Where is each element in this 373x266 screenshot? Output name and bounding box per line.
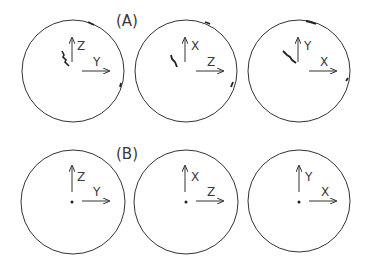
panel-a-1: Z Y: [22, 20, 124, 122]
horizontal-axis-label: Y: [92, 185, 101, 199]
point-trace: [185, 201, 188, 204]
horizontal-axis-label: Z: [207, 185, 215, 199]
horizontal-axis-label: Y: [92, 55, 101, 69]
horizontal-axis-label: X: [321, 185, 329, 199]
panel-a-2: X Z: [135, 20, 237, 122]
vertical-axis-label: Z: [77, 170, 85, 184]
vertical-axis-label: Z: [77, 39, 85, 53]
trajectory-trace: [171, 55, 177, 67]
horizontal-axis-label: X: [320, 55, 328, 69]
panel-b-2: X Z: [134, 150, 238, 254]
point-trace: [71, 201, 74, 204]
vertical-axis-label: X: [191, 170, 199, 184]
horizontal-axis-label: Z: [207, 55, 215, 69]
row-label-a: (A): [116, 12, 138, 30]
row-label-b: (B): [116, 145, 138, 163]
trajectory-trace: [283, 51, 296, 63]
point-trace: [298, 201, 301, 204]
vertical-axis-label: Y: [303, 39, 312, 53]
vertical-axis-label: Y: [304, 170, 313, 184]
trajectory-trace: [62, 51, 69, 66]
diagram-canvas: (A) (B) Z Y X Z Y X Z Y: [0, 0, 373, 266]
vertical-axis-label: X: [191, 39, 199, 53]
panel-a-3: Y X: [248, 20, 350, 122]
panel-b-1: Z Y: [21, 150, 125, 254]
panel-b-3: Y X: [248, 150, 350, 252]
